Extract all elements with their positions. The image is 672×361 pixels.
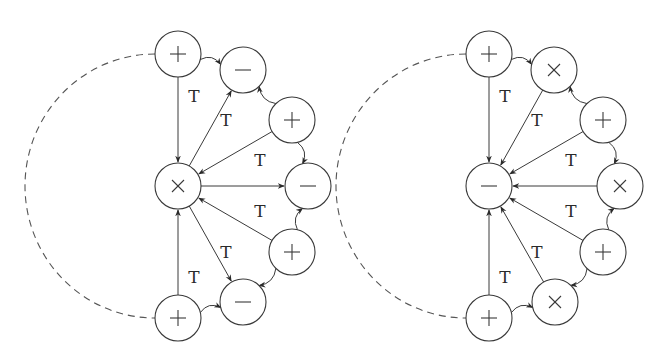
outer-node — [155, 295, 201, 341]
outer-node — [580, 97, 626, 143]
outer-node — [155, 31, 201, 77]
outer-node — [531, 47, 577, 93]
outer-node — [220, 279, 266, 325]
outer-node — [580, 229, 626, 275]
outer-arc-edge — [571, 269, 587, 286]
right-diagram: TTTTTT — [336, 31, 643, 341]
dashed-arc-edge — [25, 54, 155, 318]
edge-label-t: T — [254, 201, 266, 221]
outer-arc-edge — [200, 305, 220, 312]
edge-label-t: T — [531, 110, 543, 130]
edge-label-t: T — [499, 267, 511, 287]
outer-node — [269, 97, 315, 143]
outer-node — [285, 163, 331, 209]
outer-arc-edge — [297, 142, 304, 163]
outer-arc-edge — [295, 208, 302, 229]
outer-node — [220, 47, 266, 93]
edge-label-t: T — [220, 110, 232, 130]
outer-arc-edge — [607, 208, 615, 229]
outer-arc-edge — [200, 57, 220, 64]
dashed-arc-edge — [336, 54, 466, 318]
outer-node — [597, 163, 643, 209]
outer-node — [269, 229, 315, 275]
edge-label-t: T — [220, 242, 232, 262]
edge-label-t: T — [499, 86, 511, 106]
outer-node — [532, 279, 578, 325]
outer-node — [466, 295, 512, 341]
outer-arc-edge — [570, 86, 587, 103]
edge-label-t: T — [188, 267, 200, 287]
left-diagram: TTTTTT — [25, 31, 331, 341]
edge-label-t: T — [565, 150, 577, 170]
edge-label-t: T — [531, 242, 543, 262]
outer-arc-edge — [259, 268, 276, 285]
center-node — [466, 163, 512, 209]
outer-arc-edge — [511, 57, 531, 64]
center-node — [155, 163, 201, 209]
outer-arc-edge — [259, 86, 276, 103]
outer-arc-edge — [511, 305, 532, 312]
edge-label-t: T — [254, 150, 266, 170]
edge-label-t: T — [188, 86, 200, 106]
outer-arc-edge — [609, 142, 617, 163]
edge-label-t: T — [565, 201, 577, 221]
outer-node — [466, 31, 512, 77]
diagram-canvas: TTTTTT TTTTTT — [0, 0, 672, 361]
